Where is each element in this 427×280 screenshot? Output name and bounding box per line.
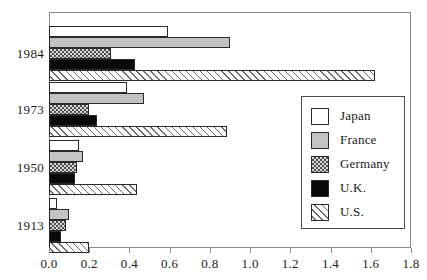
chart-legend: JapanFranceGermanyU.K.U.S. — [301, 96, 405, 229]
x-tick-label-0.2: 0.2 — [81, 256, 98, 272]
legend-swatch-uk — [311, 180, 329, 197]
x-tick-0.2 — [89, 248, 90, 253]
x-tick-0.0 — [49, 248, 50, 253]
x-tick-label-0.6: 0.6 — [161, 256, 178, 272]
legend-item-france: France — [311, 131, 377, 149]
bar-chart: 1984197319501913 0.00.20.40.60.81.01.21.… — [0, 0, 427, 280]
x-tick-label-0.8: 0.8 — [201, 256, 218, 272]
legend-swatch-france — [311, 132, 329, 149]
x-tick-label-1.4: 1.4 — [322, 256, 339, 272]
x-tick-label-0.4: 0.4 — [121, 256, 138, 272]
x-tick-1.6 — [371, 248, 372, 253]
y-label-1950: 1950 — [17, 160, 44, 176]
bar-uk-1984 — [49, 59, 135, 70]
legend-swatch-us — [311, 204, 329, 221]
bar-germany-1950 — [49, 162, 77, 173]
bar-japan-1950 — [49, 140, 79, 151]
bar-us-1950 — [49, 184, 137, 195]
bar-germany-1984 — [49, 48, 111, 59]
legend-label-us: U.S. — [340, 204, 364, 220]
x-tick-label-1.8: 1.8 — [402, 256, 419, 272]
bar-uk-1973 — [49, 115, 97, 126]
x-tick-0.4 — [129, 248, 130, 253]
x-tick-0.6 — [170, 248, 171, 253]
legend-swatch-japan — [311, 108, 329, 125]
bar-france-1913 — [49, 209, 69, 220]
bar-germany-1913 — [49, 220, 66, 231]
x-tick-1.0 — [250, 248, 251, 253]
x-tick-1.8 — [411, 248, 412, 253]
y-axis-category-labels: 1984197319501913 — [0, 12, 44, 248]
bar-japan-1913 — [49, 198, 57, 209]
bar-us-1984 — [49, 70, 375, 81]
bar-france-1984 — [49, 37, 230, 48]
legend-item-uk: U.K. — [311, 179, 366, 197]
legend-label-germany: Germany — [340, 156, 390, 172]
y-label-1984: 1984 — [17, 46, 44, 62]
legend-label-france: France — [340, 132, 377, 148]
legend-label-uk: U.K. — [340, 180, 366, 196]
x-tick-label-0.0: 0.0 — [40, 256, 57, 272]
bar-uk-1913 — [49, 231, 61, 242]
x-tick-label-1.2: 1.2 — [282, 256, 299, 272]
x-tick-0.8 — [210, 248, 211, 253]
x-tick-1.4 — [331, 248, 332, 253]
bar-japan-1973 — [49, 82, 127, 93]
legend-swatch-germany — [311, 156, 329, 173]
bar-us-1913 — [49, 242, 89, 253]
x-tick-label-1.0: 1.0 — [242, 256, 259, 272]
bar-japan-1984 — [49, 26, 168, 37]
bar-germany-1973 — [49, 104, 89, 115]
legend-item-japan: Japan — [311, 107, 371, 125]
bar-france-1950 — [49, 151, 83, 162]
legend-item-us: U.S. — [311, 203, 364, 221]
bar-group-1984 — [49, 26, 411, 81]
y-label-1973: 1973 — [17, 102, 44, 118]
bar-uk-1950 — [49, 173, 75, 184]
x-tick-1.2 — [290, 248, 291, 253]
legend-label-japan: Japan — [340, 108, 371, 124]
bar-us-1973 — [49, 126, 227, 137]
legend-item-germany: Germany — [311, 155, 390, 173]
bar-france-1973 — [49, 93, 144, 104]
y-label-1913: 1913 — [17, 218, 44, 234]
x-tick-label-1.6: 1.6 — [362, 256, 379, 272]
